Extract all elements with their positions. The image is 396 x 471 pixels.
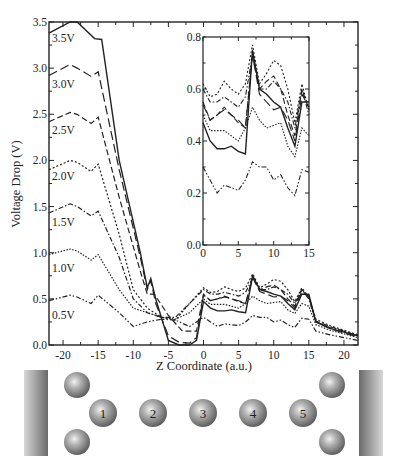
atom-number-label: 2 <box>150 406 157 421</box>
voltage-drop-figure: -20-15-10-5051015200.00.51.01.52.02.53.0… <box>0 0 396 471</box>
inset-x-tick-label: 15 <box>303 247 315 259</box>
atom-number-label: 4 <box>250 406 257 421</box>
x-tick-label: 10 <box>268 349 280 361</box>
series-labels: 3.5V3.0V2.5V2.0V1.5V1.0V0.5V <box>52 32 75 321</box>
series-label: 2.5V <box>52 124 75 136</box>
atom-number-label: 5 <box>300 406 307 421</box>
x-tick-label: 15 <box>303 349 315 361</box>
inset-y-tick-label: 0.4 <box>187 135 202 147</box>
y-tick-label: 0.5 <box>33 293 48 305</box>
x-tick-label: -20 <box>55 349 71 361</box>
right-bottom-atom <box>319 429 345 455</box>
series-label: 0.5V <box>52 309 75 321</box>
left-electrode <box>24 370 48 456</box>
y-tick-label: 3.5 <box>33 16 48 28</box>
inset-y-tick-label: 0.0 <box>187 239 202 251</box>
left-bottom-atom <box>64 429 90 455</box>
junction-diagram: 12345 <box>24 370 383 456</box>
series-label: 3.0V <box>52 78 75 90</box>
right-electrode <box>359 370 383 456</box>
atom-number-label: 3 <box>200 406 207 421</box>
series-label: 3.5V <box>52 32 75 44</box>
right-top-atom <box>319 372 345 398</box>
inset-y-tick-label: 0.8 <box>187 31 202 43</box>
x-axis-title: Z Coordinate (a.u.) <box>156 359 252 373</box>
atom-number-label: 1 <box>100 406 107 421</box>
y-tick-label: 2.5 <box>33 108 48 120</box>
y-tick-label: 3.0 <box>33 62 48 74</box>
inset-x-tick-label: 5 <box>235 247 241 259</box>
inset-y-tick-label: 0.2 <box>187 187 202 199</box>
chain-atoms: 12345 <box>89 399 317 427</box>
x-tick-label: -15 <box>90 349 106 361</box>
left-top-atom <box>64 372 90 398</box>
inset-plot: 0510150.00.20.40.60.8 <box>187 31 315 259</box>
inset-x-tick-label: 0 <box>200 247 206 259</box>
series-label: 1.5V <box>52 216 75 228</box>
inset-y-tick-label: 0.6 <box>187 83 202 95</box>
y-tick-label: 1.5 <box>33 201 48 213</box>
x-tick-label: 20 <box>338 349 350 361</box>
y-tick-label: 0.0 <box>33 339 48 351</box>
inset-x-tick-label: 10 <box>268 247 280 259</box>
x-tick-label: -10 <box>126 349 142 361</box>
y-tick-label: 2.0 <box>33 154 48 166</box>
series-label: 1.0V <box>52 262 75 274</box>
y-tick-label: 1.0 <box>33 247 48 259</box>
y-axis-title: Voltage Drop (V) <box>9 140 23 227</box>
series-line-1-0V <box>49 249 358 338</box>
series-label: 2.0V <box>52 170 75 182</box>
